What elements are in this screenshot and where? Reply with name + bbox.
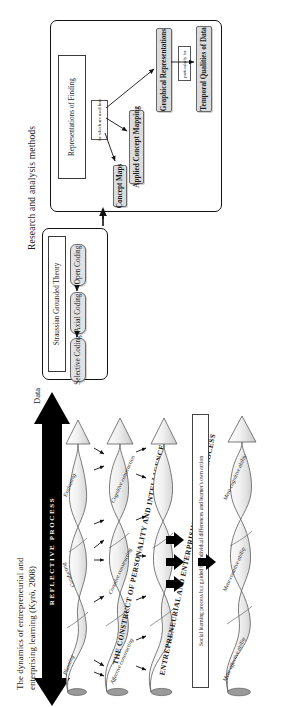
node-graphical-representations[interactable]: Graphical Representations bbox=[156, 28, 172, 112]
node-graphical-representations-label: Graphical Representations bbox=[160, 29, 168, 111]
reflective-process-band: REFLECTIVE PROCESS bbox=[42, 420, 62, 682]
connector-note: for which are used here bbox=[97, 98, 103, 141]
grounded-theory-title: Straussian Grounded Theory bbox=[53, 263, 61, 346]
node-concept-maps[interactable]: Concept Maps bbox=[113, 165, 127, 207]
data-label: Data bbox=[32, 388, 42, 404]
representations-title: Representations of Finding bbox=[68, 78, 76, 156]
reflective-process-label: REFLECTIVE PROCESS bbox=[48, 497, 56, 605]
social-learning-note-box: Social learning process but guided by in… bbox=[192, 414, 209, 688]
node-applied-concept-mapping-label: Applied Concept Mapping bbox=[133, 106, 141, 187]
edge-note-box: particularly for bbox=[178, 46, 191, 81]
node-concept-maps-label: Concept Maps bbox=[116, 164, 124, 209]
node-temporal-qualities-label: Temporal Qualities of Data bbox=[200, 27, 208, 110]
node-open-coding-label: Open Coding bbox=[74, 246, 82, 285]
ribbon-meta: Meta-affective ability Meta-conative abi… bbox=[222, 400, 260, 700]
ribbon-learning: ENTREPRENEURIAL AND ENTERPRISING LEARNIN… bbox=[146, 400, 180, 700]
edge-note: particularly for bbox=[182, 50, 188, 78]
figure-canvas: Research and analysis methods Straussian… bbox=[0, 0, 282, 707]
node-temporal-qualities[interactable]: Temporal Qualities of Data bbox=[196, 26, 212, 112]
connector-note-box: for which are used here bbox=[91, 100, 108, 140]
ribbon-process: Planning Conducting Evaluating bbox=[64, 400, 92, 700]
grounded-theory-title-box: Straussian Grounded Theory bbox=[48, 236, 66, 372]
node-applied-concept-mapping[interactable]: Applied Concept Mapping bbox=[129, 110, 144, 184]
node-open-coding[interactable]: Open Coding bbox=[70, 244, 86, 286]
section-heading-research-methods: Research and analysis methods bbox=[27, 126, 37, 250]
node-selective-coding-label: Selective Coding bbox=[74, 335, 82, 384]
ribbon-construct: THE CONSTRUCT OF PERSONALITY AND INTELLI… bbox=[102, 400, 136, 700]
node-axial-coding[interactable]: Axial Coding bbox=[70, 292, 86, 334]
figure-caption-line1: The dynamics of entrepreneurial and bbox=[14, 558, 26, 690]
figure-caption-line2: enterprising learning (Kyrö, 2008) bbox=[26, 566, 38, 690]
social-learning-note: Social learning process but guided by in… bbox=[198, 456, 204, 646]
node-axial-coding-label: Axial Coding bbox=[74, 294, 82, 333]
node-selective-coding[interactable]: Selective Coding bbox=[70, 338, 86, 382]
representations-title-box: Representations of Finding bbox=[58, 55, 86, 179]
